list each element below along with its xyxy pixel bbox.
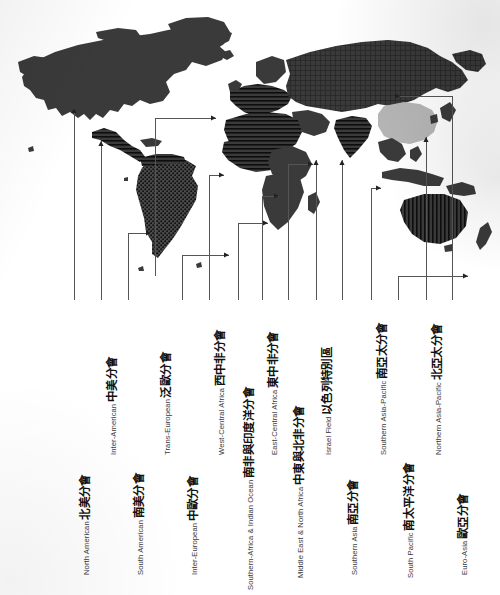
map-label-zh-inter-american: 中美分會: [107, 357, 119, 403]
map-label-southern-asia[interactable]: Southern Asia南亞分會: [348, 479, 360, 575]
map-label-en-south-pacific: South Pacific: [407, 532, 416, 578]
map-label-inter-european[interactable]: Inter-European中歐分會: [188, 476, 200, 575]
leader-arrowhead-southern-asia: [339, 160, 344, 165]
leader-line-south-pacific: [398, 276, 468, 300]
map-label-zh-south-american: 南美分會: [134, 473, 146, 519]
map-label-zh-east-central-africa: 東中非分會: [268, 331, 280, 388]
land-indonesia: [382, 168, 444, 186]
map-label-east-central-africa[interactable]: East-Central Africa東中非分會: [268, 331, 280, 455]
leader-arrowhead-inter-european: [224, 252, 229, 257]
map-label-en-south-american: South American: [137, 520, 146, 575]
map-label-en-north-american: North American: [83, 521, 92, 575]
map-label-en-inter-american: Inter-American: [110, 404, 119, 455]
map-label-israel-field[interactable]: Israel Field以色列特別區: [322, 347, 334, 455]
map-label-en-southern-asia-pacific: Southern Asia-Pacific: [380, 381, 389, 455]
map-label-zh-euro-asia: 歐亞分會: [458, 494, 470, 540]
map-label-euro-asia[interactable]: Euro-Asia歐亞分會: [458, 494, 470, 575]
landmass-group: [18, 17, 492, 271]
leader-arrowhead-trans-european: [211, 115, 216, 120]
leader-line-southern-africa-indian-ocean: [238, 223, 268, 300]
map-label-en-southern-africa-indian-ocean: Southern-Africa & Indian Ocean: [247, 480, 256, 590]
leader-line-south-american: [128, 233, 151, 300]
land-australia: [400, 194, 468, 244]
map-label-inter-american[interactable]: Inter-American中美分會: [107, 357, 119, 455]
land-northern-asia: [286, 40, 468, 112]
leader-line-inter-european: [182, 255, 229, 300]
map-label-en-west-central-africa: West-Central Africa: [218, 388, 227, 455]
map-label-north-american[interactable]: North American北美分會: [80, 474, 92, 575]
map-label-zh-inter-european: 中歐分會: [188, 476, 200, 522]
map-label-zh-southern-asia-pacific: 南亞太分會: [377, 322, 389, 379]
map-label-zh-north-american: 北美分會: [80, 474, 92, 520]
land-southern-africa: [262, 172, 304, 230]
map-label-zh-southern-asia: 南亞分會: [348, 479, 360, 525]
land-south-america: [136, 157, 198, 258]
map-label-west-central-africa[interactable]: West-Central Africa西中非分會: [215, 329, 227, 455]
map-label-trans-european[interactable]: Trans-European泛歐分會: [161, 352, 173, 455]
land-png: [446, 182, 476, 196]
map-label-en-trans-european: Trans-European: [164, 399, 173, 455]
land-caribbean: [140, 138, 162, 147]
map-label-middle-east-north-africa[interactable]: Middle East & North Africa中東與北非分會: [294, 405, 306, 578]
map-diagram-stage: North American北美分會Inter-American中美分會Sout…: [0, 0, 500, 595]
map-label-zh-south-pacific: 南太平洋分會: [404, 462, 416, 530]
map-label-south-american[interactable]: South American南美分會: [134, 473, 146, 575]
map-label-zh-israel-field: 以色列特別區: [322, 347, 334, 415]
map-label-southern-asia-pacific[interactable]: Southern Asia-Pacific南亞太分會: [377, 322, 389, 455]
leader-arrowhead-south-pacific: [463, 273, 468, 278]
leader-arrowhead-inter-american: [98, 141, 103, 146]
map-label-en-northern-asia-pacific: Northern Asia-Pacific: [435, 382, 444, 455]
leader-arrowhead-west-central-africa: [219, 172, 224, 177]
map-label-zh-northern-asia-pacific: 北亞太分會: [432, 323, 444, 380]
leader-line-southern-asia-pacific: [371, 188, 381, 300]
map-label-northern-asia-pacific[interactable]: Northern Asia-Pacific北亞太分會: [432, 323, 444, 455]
land-madagascar: [308, 192, 320, 214]
land-new-zealand: [476, 222, 492, 250]
map-label-zh-middle-east-north-africa: 中東與北非分會: [294, 405, 306, 485]
map-label-en-middle-east-north-africa: Middle East & North Africa: [297, 487, 306, 578]
leader-line-west-central-africa: [209, 175, 224, 300]
land-japan: [440, 102, 456, 122]
map-label-en-east-central-africa: East-Central Africa: [271, 390, 280, 455]
map-label-zh-southern-africa-indian-ocean: 南非與印度洋分會: [244, 387, 256, 478]
land-china-highlight: [378, 102, 438, 144]
map-label-south-pacific[interactable]: South Pacific南太平洋分會: [404, 462, 416, 578]
land-philippines: [410, 146, 422, 162]
map-label-en-inter-european: Inter-European: [191, 523, 200, 575]
leader-arrowhead-southern-africa-indian-ocean: [263, 220, 268, 225]
leader-arrowhead-southern-asia-pacific: [376, 185, 381, 190]
map-label-zh-west-central-africa: 西中非分會: [215, 329, 227, 386]
leader-arrowhead-israel-field: [313, 160, 318, 165]
map-label-zh-trans-european: 泛歐分會: [161, 352, 173, 398]
map-label-en-euro-asia: Euro-Asia: [461, 541, 470, 575]
map-label-en-israel-field: Israel Field: [325, 417, 334, 455]
map-label-southern-africa-indian-ocean[interactable]: Southern-Africa & Indian Ocean南非與印度洋分會: [244, 387, 256, 590]
land-scandinavia: [256, 56, 286, 84]
map-label-en-southern-asia: Southern Asia: [351, 526, 360, 575]
land-india: [334, 116, 372, 158]
